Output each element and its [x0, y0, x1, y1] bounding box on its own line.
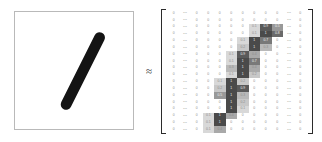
matrix-cell: 0	[191, 78, 203, 85]
matrix-cell: 0	[260, 58, 272, 65]
matrix-cell: 0	[226, 119, 238, 126]
matrix-cell: 0	[249, 113, 261, 120]
matrix-cell: 0	[191, 85, 203, 92]
handwritten-digit-panel	[14, 11, 134, 130]
matrix-cell: 0	[191, 17, 203, 24]
matrix-ellipsis: ⋯	[283, 17, 295, 24]
matrix-cell: 0	[168, 17, 180, 24]
matrix-cell: 0.1	[249, 31, 261, 38]
matrix-cell: 0	[295, 119, 307, 126]
matrix-ellipsis: ⋯	[283, 92, 295, 99]
matrix-cell: 0	[272, 72, 284, 79]
matrix-cell: 0.1	[249, 24, 261, 31]
matrix-cell: 0	[295, 65, 307, 72]
matrix-cell: 0	[214, 51, 226, 58]
matrix-cell: 1	[260, 31, 272, 38]
matrix-grid: 0⋯00000000⋯00⋯00000000⋯00⋯000000.10.90.5…	[168, 10, 306, 133]
matrix-cell: 0	[272, 51, 284, 58]
digit-stroke-canvas	[15, 12, 133, 129]
matrix-cell: 0	[168, 10, 180, 17]
matrix-ellipsis: ⋯	[180, 78, 192, 85]
matrix-cell: 0	[260, 10, 272, 17]
matrix-cell: 0	[249, 85, 261, 92]
matrix-ellipsis: ⋯	[180, 119, 192, 126]
matrix-cell: 0	[191, 99, 203, 106]
matrix-cell: 0.7	[249, 58, 261, 65]
matrix-cell: 1	[214, 119, 226, 126]
matrix-cell: 0.4	[214, 126, 226, 133]
matrix-cell: 0	[260, 72, 272, 79]
matrix-ellipsis: ⋯	[283, 31, 295, 38]
matrix-cell: 0.2	[214, 85, 226, 92]
matrix-cell: 0	[191, 44, 203, 51]
matrix-cell: 0	[214, 37, 226, 44]
matrix-cell: 0	[214, 65, 226, 72]
matrix-cell: 0	[203, 65, 215, 72]
matrix-cell: 0.1	[203, 119, 215, 126]
matrix-cell: 0	[168, 51, 180, 58]
matrix-cell: 0.3	[260, 44, 272, 51]
matrix-cell: 0	[272, 106, 284, 113]
matrix-cell: 0	[249, 92, 261, 99]
matrix-cell: 0	[249, 99, 261, 106]
matrix-cell: 0	[260, 85, 272, 92]
matrix-bracket-left	[161, 9, 166, 134]
matrix-cell: 0	[203, 78, 215, 85]
matrix-ellipsis: ⋯	[180, 85, 192, 92]
matrix-ellipsis: ⋯	[283, 106, 295, 113]
matrix-ellipsis: ⋯	[180, 10, 192, 17]
matrix-cell: 0	[203, 10, 215, 17]
matrix-cell: 0.4	[249, 65, 261, 72]
matrix-cell: 0	[214, 24, 226, 31]
matrix-cell: 1	[249, 37, 261, 44]
matrix-ellipsis: ⋯	[283, 37, 295, 44]
matrix-ellipsis: ⋯	[180, 17, 192, 24]
matrix-cell: 0	[168, 24, 180, 31]
matrix-cell: 1	[226, 99, 238, 106]
matrix-cell: 0	[237, 126, 249, 133]
matrix-cell: 0	[168, 126, 180, 133]
matrix-cell: 0	[168, 58, 180, 65]
matrix-cell: 0.9	[260, 24, 272, 31]
matrix-cell: 0	[226, 31, 238, 38]
matrix-cell: 0	[226, 37, 238, 44]
matrix-cell: 0	[295, 37, 307, 44]
matrix-cell: 0	[168, 92, 180, 99]
matrix-cell: 1	[226, 92, 238, 99]
matrix-cell: 0	[295, 10, 307, 17]
matrix-cell: 0	[272, 85, 284, 92]
matrix-ellipsis: ⋯	[283, 58, 295, 65]
matrix-ellipsis: ⋯	[283, 119, 295, 126]
matrix-ellipsis: ⋯	[283, 126, 295, 133]
matrix-cell: 0	[260, 119, 272, 126]
matrix-cell: 0	[237, 10, 249, 17]
matrix-ellipsis: ⋯	[180, 51, 192, 58]
matrix-ellipsis: ⋯	[180, 44, 192, 51]
matrix-cell: 0	[295, 85, 307, 92]
matrix-cell: 0	[295, 113, 307, 120]
matrix-cell: 0	[295, 92, 307, 99]
matrix-cell: 0	[237, 113, 249, 120]
matrix-cell: 0	[237, 31, 249, 38]
approx-equals-symbol: ≈	[140, 62, 158, 80]
matrix-cell: 0	[260, 51, 272, 58]
matrix-cell: 0.5	[214, 92, 226, 99]
matrix-cell: 0	[203, 17, 215, 24]
matrix-cell: 0.1	[214, 78, 226, 85]
matrix-cell: 0	[249, 126, 261, 133]
matrix-cell: 0	[272, 10, 284, 17]
matrix-cell: 0.3	[226, 65, 238, 72]
matrix-cell: 0	[191, 24, 203, 31]
matrix-cell: 0	[260, 92, 272, 99]
matrix-cell: 1	[226, 78, 238, 85]
matrix-cell: 0	[272, 92, 284, 99]
matrix-cell: 0	[295, 58, 307, 65]
matrix-cell: 0	[168, 44, 180, 51]
matrix-bracket-right	[308, 9, 313, 134]
digit-stroke-one	[66, 38, 99, 105]
matrix-cell: 0	[168, 78, 180, 85]
matrix-cell: 0	[226, 10, 238, 17]
matrix-cell: 0	[295, 72, 307, 79]
matrix-cell: 0	[249, 10, 261, 17]
matrix-ellipsis: ⋯	[180, 92, 192, 99]
